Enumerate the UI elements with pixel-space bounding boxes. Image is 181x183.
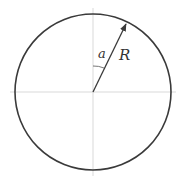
angle-label: a: [98, 46, 106, 61]
diagram-canvas: a R: [0, 0, 181, 183]
angle-arc: [93, 66, 104, 68]
radius-label: R: [118, 46, 130, 64]
